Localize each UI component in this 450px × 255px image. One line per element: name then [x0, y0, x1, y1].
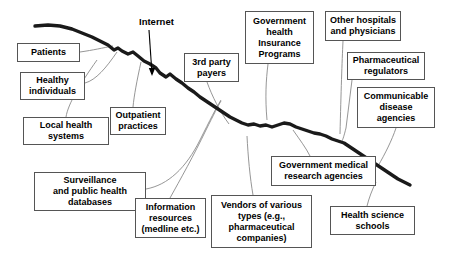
node-local-health-systems[interactable]: Local health systems: [23, 117, 109, 145]
connector-healthy-individuals: [85, 52, 117, 83]
connector-outpatient-practices: [133, 62, 141, 107]
node-vendors[interactable]: Vendors of various types (e.g., pharmace…: [211, 195, 312, 248]
connector-vendors: [247, 136, 253, 195]
internet-label: Internet: [139, 16, 174, 27]
internet-arrow-head: [149, 68, 155, 76]
node-patients[interactable]: Patients: [17, 43, 80, 62]
node-health-science-schools[interactable]: Health science schools: [330, 206, 415, 235]
node-government-health-insurance[interactable]: Government health Insurance Programs: [245, 11, 314, 64]
internet-arrow: [149, 30, 155, 76]
node-outpatient-practices[interactable]: Outpatient practices: [110, 107, 166, 135]
connector-other-hospitals: [340, 41, 343, 134]
node-pharmaceutical-regulators[interactable]: Pharmaceutical regulators: [347, 52, 425, 80]
node-third-party-payers[interactable]: 3rd party payers: [184, 53, 239, 82]
node-healthy-individuals[interactable]: Healthy individuals: [20, 72, 85, 100]
internet-arrow-line: [149, 30, 152, 74]
diagram-canvas: Internet PatientsHealthy individualsLoca…: [0, 0, 450, 255]
node-other-hospitals[interactable]: Other hospitals and physicians: [325, 11, 401, 41]
node-government-medical-research[interactable]: Government medical research agencies: [271, 156, 376, 186]
connector-pharmaceutical-regulators: [342, 80, 352, 141]
node-communicable-disease[interactable]: Communicable disease agencies: [357, 87, 435, 128]
node-information-resources[interactable]: Information resources (medline etc.): [135, 198, 206, 238]
connector-information-resources: [170, 101, 221, 198]
connector-government-health-insurance: [266, 64, 268, 120]
connector-government-medical-research: [293, 130, 310, 156]
connector-communicable-disease: [378, 128, 396, 166]
node-surveillance-databases[interactable]: Surveillance and public health databases: [34, 172, 146, 211]
